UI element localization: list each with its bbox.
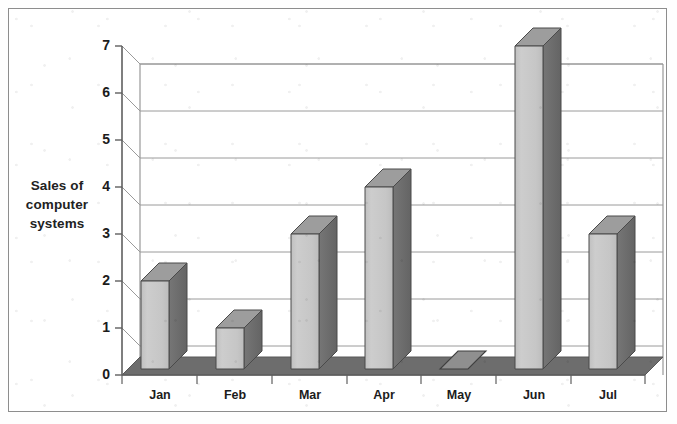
bar-apr — [365, 169, 411, 369]
y-tick-label-7: 7 — [84, 37, 110, 53]
x-tick-label-apr: Apr — [349, 388, 419, 402]
y-tick-label-4: 4 — [84, 178, 110, 194]
x-tick-label-jul: Jul — [573, 388, 643, 402]
y-tick-label-0: 0 — [84, 366, 110, 382]
y-tick-label-3: 3 — [84, 225, 110, 241]
x-tick-label-jun: Jun — [499, 388, 569, 402]
y-tick-label-6: 6 — [84, 84, 110, 100]
x-axis-line — [122, 375, 645, 384]
x-tick-label-jan: Jan — [125, 388, 195, 402]
bar-chart-canvas — [0, 0, 677, 424]
y-axis-label-line-2: computer — [14, 195, 100, 214]
y-tick-label-1: 1 — [84, 319, 110, 335]
y-tick-label-2: 2 — [84, 272, 110, 288]
y-axis-line — [115, 46, 122, 375]
x-tick-label-feb: Feb — [200, 388, 270, 402]
bar-jul — [589, 216, 635, 369]
x-tick-label-mar: Mar — [275, 388, 345, 402]
chart-page: Sales of computer systems 7 6 5 4 3 2 1 … — [0, 0, 677, 424]
x-tick-label-may: May — [424, 388, 494, 402]
y-tick-label-5: 5 — [84, 131, 110, 147]
bar-jun — [515, 28, 561, 369]
bar-mar — [291, 216, 337, 369]
bar-jan — [141, 263, 187, 369]
